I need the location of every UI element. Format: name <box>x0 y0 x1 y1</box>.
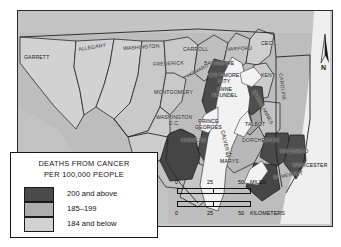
county-label-line: MONTGOMERY <box>154 90 193 96</box>
county-label-anne: ANNEARUNDEL <box>212 87 237 98</box>
county-label-line: DORCHESTER <box>242 138 279 144</box>
county-label-st-: ST.MARYS <box>220 153 239 164</box>
scale-miles-zero: 0 <box>175 179 178 185</box>
county-label-line: WICOMICO <box>280 149 308 155</box>
scale-miles-numbers: 0 25 50 MILES <box>174 179 278 186</box>
legend-class-label: 184 and below <box>67 219 116 228</box>
county-label-line: CITY <box>209 79 239 85</box>
county-label-line: MARYS <box>220 159 239 165</box>
north-arrow: N <box>314 33 333 77</box>
county-label-garrett: GARRETT <box>24 55 49 61</box>
county-label-montgomery: MONTGOMERY <box>154 90 193 96</box>
county-label-talbot: TALBOT <box>245 122 265 128</box>
scale-km-max: 50 <box>238 210 244 216</box>
county-label-charles: CHARLES <box>181 138 206 144</box>
county-label-washington: WASHINGTOND.C. <box>156 115 192 126</box>
scale-bar-kilometers <box>177 201 251 207</box>
north-arrow-icon <box>314 33 333 67</box>
cancer-death-rate-map-figure: GARRETTALLEGANYWASHINGTONFREDERICKCARROL… <box>0 0 341 247</box>
scale-miles-mid: 25 <box>207 179 213 185</box>
county-label-baltimore: BALTIMORECITY <box>209 73 239 84</box>
county-label-line: WORCESTER <box>293 163 327 169</box>
county-label-line: GEORGES <box>195 125 222 131</box>
scale-km-unit: KILOMETERS <box>250 210 285 216</box>
north-label: N <box>321 64 326 71</box>
county-label-line: ARUNDEL <box>212 93 237 99</box>
county-label-line: D.C. <box>156 121 192 127</box>
scale-bar-miles <box>177 188 251 194</box>
legend-title: DEATHS FROM CANCER PER 100,000 PEOPLE <box>11 153 157 180</box>
county-label-wicomico: WICOMICO <box>280 149 308 155</box>
county-label-line: CARROLL <box>183 47 208 53</box>
legend-swatch <box>24 202 54 217</box>
county-label-line: CHARLES <box>181 138 206 144</box>
scale-bars: 0 25 50 MILES 0 25 50 KILOMETERS <box>174 179 278 221</box>
county-label-worcester: WORCESTER <box>293 163 327 169</box>
legend-title-line1: DEATHS FROM CANCER <box>11 159 157 170</box>
county-label-line: GARRETT <box>24 55 49 61</box>
scale-km-zero: 0 <box>175 210 178 216</box>
scale-km-numbers: 0 25 50 KILOMETERS <box>174 210 278 217</box>
county-label-line: CECIL <box>261 41 277 47</box>
county-label-carroll: CARROLL <box>183 47 208 53</box>
county-label-kent: KENT <box>261 73 275 79</box>
legend-class-label: 200 and above <box>67 189 117 198</box>
scale-miles-unit: MILES <box>250 179 266 185</box>
county-label-prince: PRINCEGEORGES <box>195 119 222 130</box>
scale-miles-max: 50 <box>238 179 244 185</box>
county-label-line: TALBOT <box>245 122 265 128</box>
county-label-line: KENT <box>261 73 275 79</box>
legend-class-label: 185–199 <box>67 204 97 213</box>
legend-title-line2: PER 100,000 PEOPLE <box>11 170 157 181</box>
map-legend: DEATHS FROM CANCER PER 100,000 PEOPLE 20… <box>10 152 158 238</box>
county-label-dorchester: DORCHESTER <box>242 138 279 144</box>
county-label-cecil: CECIL <box>261 41 277 47</box>
scale-km-mid: 25 <box>207 210 213 216</box>
legend-swatch <box>24 187 54 202</box>
legend-swatch <box>24 217 54 232</box>
